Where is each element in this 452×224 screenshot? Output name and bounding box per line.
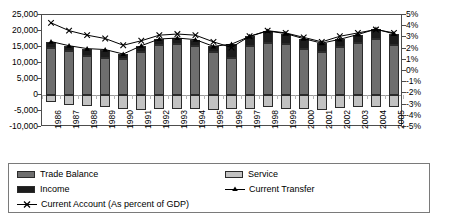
y-left-tick-label: 25,000	[12, 10, 38, 19]
legend-item-label: Service	[248, 170, 278, 179]
legend-item[interactable]: Service	[225, 170, 278, 179]
y-left-tick-label: 5,000	[17, 74, 38, 83]
y-left-tick-label: 20,000	[12, 26, 38, 35]
legend-item[interactable]: Current Account (As percent of GDP)	[17, 200, 189, 209]
chart-legend: Trade BalanceServiceIncomeCurrent Transf…	[8, 163, 430, 213]
x-axis-tick-label: 2000	[307, 110, 316, 129]
x-axis-tick-label: 1990	[126, 110, 135, 129]
y-left-tick-label: 15,000	[12, 42, 38, 51]
legend-marker-x	[17, 200, 37, 209]
y-right-tick-label: -2%	[406, 88, 421, 97]
x-axis-tick-label: 1993	[180, 110, 189, 129]
legend-marker-triangle	[225, 185, 245, 194]
y-right-tick-label: 4%	[406, 21, 418, 30]
x-axis-tick-label: 2002	[343, 110, 352, 129]
x-axis-tick-label: 1986	[54, 110, 63, 129]
y-left-tick-label: -10,000	[9, 122, 38, 131]
y-right-tick-label: -5%	[406, 122, 421, 131]
marker-x	[48, 20, 54, 26]
x-axis-tick-label: 1991	[144, 110, 153, 129]
line-current-account	[51, 23, 394, 48]
legend-item-label: Income	[40, 185, 70, 194]
legend-item[interactable]: Trade Balance	[17, 170, 98, 179]
x-axis-tick-label: 1988	[90, 110, 99, 129]
x-axis-tick-label: 1999	[289, 110, 298, 129]
y-left-tick-label: -5,000	[14, 106, 38, 115]
line-current-transfer	[51, 29, 394, 54]
legend-item-label: Current Transfer	[249, 185, 315, 194]
x-axis-tick-label: 1989	[108, 110, 117, 129]
x-axis-tick-label: 2003	[361, 110, 370, 129]
marker-triangle	[48, 39, 53, 44]
legend-swatch-income	[17, 186, 35, 193]
x-axis-tick-label: 1994	[198, 110, 207, 129]
x-axis-tick-label: 2001	[325, 110, 334, 129]
x-axis-tick-label: 1992	[162, 110, 171, 129]
y-right-tick-label: 0%	[406, 66, 418, 75]
y-right-tick-label: 3%	[406, 32, 418, 41]
legend-swatch-service	[225, 171, 243, 178]
x-axis-tick-label: 1995	[216, 110, 225, 129]
y-left-tick-label: 10,000	[12, 58, 38, 67]
plot-inner	[42, 15, 401, 125]
y-right-tick-label: -4%	[406, 111, 421, 120]
chart-container: 25,00020,00015,00010,0005,0000-5,000-10,…	[0, 0, 452, 224]
x-axis-tick-label: 2004	[379, 110, 388, 129]
x-axis-tick-label: 1996	[235, 110, 244, 129]
legend-item[interactable]: Income	[17, 185, 70, 194]
legend-item-label: Current Account (As percent of GDP)	[41, 200, 189, 209]
legend-item[interactable]: Current Transfer	[225, 185, 315, 194]
x-axis-tick-label: 1998	[271, 110, 280, 129]
legend-item-label: Trade Balance	[40, 170, 98, 179]
baseline-minor-tick	[403, 95, 404, 99]
x-axis-tick-label: 1987	[72, 110, 81, 129]
x-axis-tick-label: 2005	[397, 110, 406, 129]
legend-swatch-trade	[17, 171, 35, 178]
y-right-tick-label: -3%	[406, 100, 421, 109]
y-right-tick-label: 2%	[406, 44, 418, 53]
y-right-tick-label: 1%	[406, 55, 418, 64]
x-axis-tick-label: 1997	[253, 110, 262, 129]
y-right-tick-label: 5%	[406, 10, 418, 19]
y-right-tick-label: -1%	[406, 77, 421, 86]
y-left-tick	[37, 126, 41, 127]
